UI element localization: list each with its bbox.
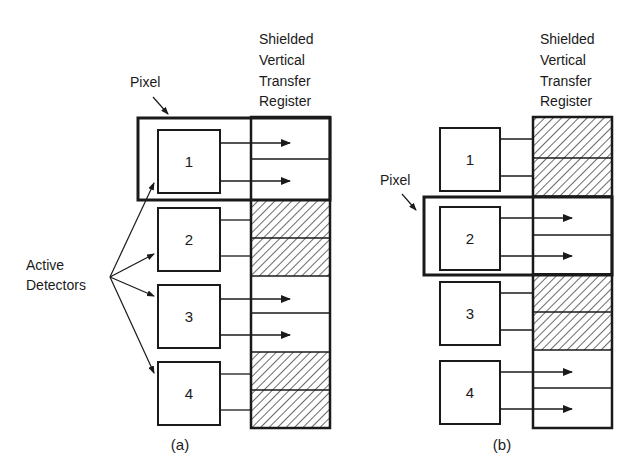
shielded-cell	[534, 312, 612, 350]
register-column-a	[251, 117, 330, 428]
pixel-label-b: Pixel	[380, 172, 410, 188]
svg-text:1: 1	[185, 153, 193, 170]
detector-2-a: 2	[158, 208, 251, 271]
detector-1-a: 1	[158, 130, 290, 193]
detector-1-b: 1	[440, 128, 533, 191]
svg-text:3: 3	[185, 308, 193, 325]
interline-ccd-diagram: Shielded Vertical Transfer Register Pixe…	[0, 0, 641, 471]
shielded-cell	[534, 118, 612, 158]
svg-text:2: 2	[185, 231, 193, 248]
svg-text:2: 2	[466, 230, 474, 247]
detector-3-a: 3	[158, 285, 290, 348]
svg-text:1: 1	[466, 151, 474, 168]
panel-b: Shielded Vertical Transfer Register Pixe…	[380, 31, 612, 453]
shielded-cell	[251, 238, 330, 276]
register-column-b	[533, 117, 612, 428]
active-detectors-arrows	[110, 183, 154, 373]
svg-text:4: 4	[185, 385, 193, 402]
shielded-cell	[251, 352, 330, 390]
caption-b: (b)	[493, 436, 511, 453]
pixel-label-a: Pixel	[130, 74, 160, 90]
svg-text:3: 3	[466, 305, 474, 322]
shielded-cell	[534, 274, 612, 312]
shielded-cell	[251, 390, 330, 428]
panel-a: Shielded Vertical Transfer Register Pixe…	[26, 31, 330, 453]
register-title-b: Shielded Vertical Transfer Register	[540, 31, 598, 109]
detector-4-a: 4	[158, 362, 251, 425]
shielded-cell	[534, 158, 612, 196]
pixel-arrow-a	[153, 97, 168, 114]
shielded-cell	[251, 200, 330, 238]
register-title-a: Shielded Vertical Transfer Register	[259, 31, 317, 109]
caption-a: (a)	[171, 436, 189, 453]
pixel-arrow-b	[402, 194, 416, 210]
detector-3-b: 3	[440, 282, 533, 345]
svg-text:4: 4	[466, 384, 474, 401]
active-detectors-label: Active Detectors	[26, 257, 86, 293]
detector-2-b: 2	[440, 207, 572, 270]
detector-4-b: 4	[440, 361, 572, 424]
